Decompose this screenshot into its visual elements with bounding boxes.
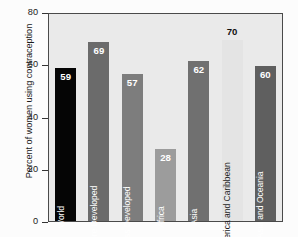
bar-value-label: 62 — [188, 64, 209, 75]
bar-value-label: 70 — [222, 26, 243, 37]
bar: 62Asia — [188, 61, 209, 221]
bar-value-label: 69 — [88, 45, 109, 56]
y-axis-tick-label: 80 — [8, 8, 38, 17]
bar-category-label: More Developed — [89, 186, 99, 237]
bar: 59World — [55, 68, 76, 221]
bar: 70Latin America and Caribbean — [222, 40, 243, 221]
bar-value-label: 59 — [55, 71, 76, 82]
y-axis-tick — [42, 222, 48, 223]
bar-category-label: Less Developed — [122, 187, 132, 237]
bar-value-label: 28 — [155, 152, 176, 163]
plot-area: 59World69More Developed57Less Developed2… — [48, 13, 283, 222]
bar-value-label: 60 — [255, 69, 276, 80]
bar: 69More Developed — [88, 42, 109, 221]
bar-category-label: South Asia and Oceania — [255, 171, 265, 237]
bar-category-label: Asia — [189, 209, 199, 226]
bar: 57Less Developed — [122, 74, 143, 221]
y-axis-tick-label: 60 — [8, 60, 38, 69]
bar-category-label: World — [56, 206, 66, 228]
y-axis-tick-label: 40 — [8, 113, 38, 122]
bar-category-label: Africa — [156, 206, 166, 228]
bar-value-label: 57 — [122, 77, 143, 88]
y-axis-tick-label: 20 — [8, 165, 38, 174]
y-axis-tick-label: 0 — [8, 217, 38, 226]
bar-chart-figure: Percent of women using contraception 020… — [0, 0, 298, 237]
y-axis-title: Percent of women using contraception — [24, 0, 34, 206]
bar-category-label: Latin America and Caribbean — [222, 162, 232, 237]
bar: 60South Asia and Oceania — [255, 66, 276, 221]
bar: 28Africa — [155, 149, 176, 221]
